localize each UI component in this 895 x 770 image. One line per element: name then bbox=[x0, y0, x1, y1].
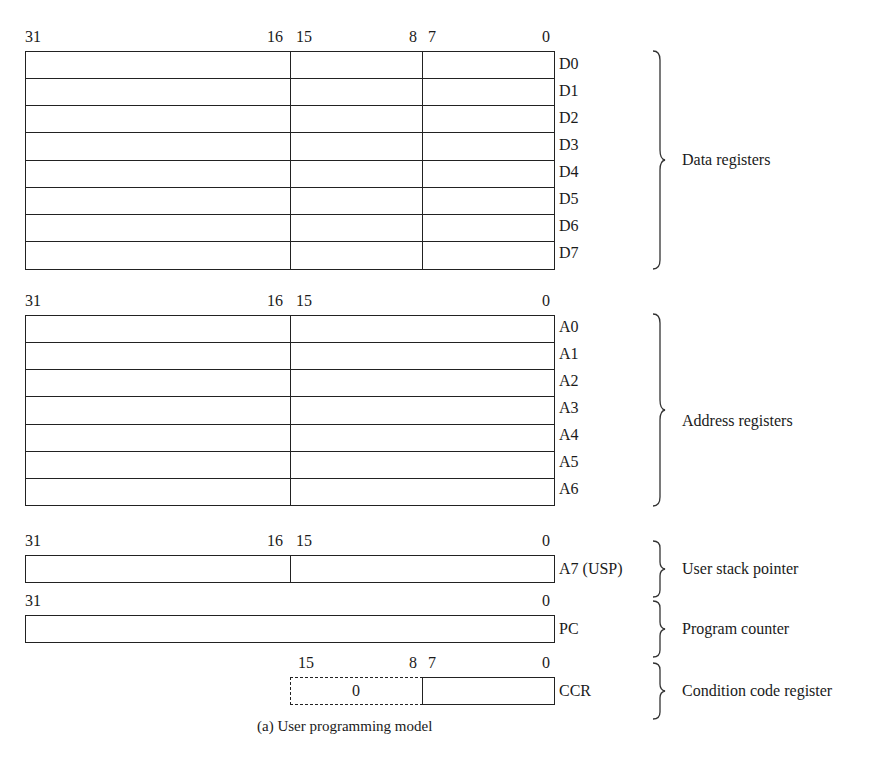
address-register-block bbox=[25, 315, 555, 506]
byte-divider bbox=[422, 52, 423, 269]
register-label-a4: A4 bbox=[559, 427, 579, 443]
register-label-ccr: CCR bbox=[559, 683, 591, 699]
brace-icon bbox=[650, 313, 670, 507]
register-label-d6: D6 bbox=[559, 218, 579, 234]
a7-register-box bbox=[25, 555, 555, 583]
bit-label-16: 16 bbox=[267, 29, 283, 45]
word-divider bbox=[290, 316, 291, 505]
ccr-register-box bbox=[422, 677, 555, 705]
register-label-a0: A0 bbox=[559, 319, 579, 335]
bit-label-31: 31 bbox=[25, 533, 41, 549]
bit-label-8: 8 bbox=[409, 655, 417, 671]
group-label-program-counter: Program counter bbox=[682, 621, 789, 637]
bit-label-15: 15 bbox=[296, 293, 312, 309]
word-divider bbox=[290, 52, 291, 269]
ccr-upper-value: 0 bbox=[352, 683, 360, 699]
bit-label-0: 0 bbox=[542, 29, 550, 45]
brace-icon bbox=[650, 662, 670, 720]
register-label-d2: D2 bbox=[559, 110, 579, 126]
register-label-d7: D7 bbox=[559, 245, 579, 261]
brace-icon bbox=[650, 540, 670, 598]
bit-label-16: 16 bbox=[267, 293, 283, 309]
register-label-d5: D5 bbox=[559, 191, 579, 207]
group-label-data-registers: Data registers bbox=[682, 152, 770, 168]
register-label-pc: PC bbox=[559, 621, 579, 637]
register-label-d0: D0 bbox=[559, 56, 579, 72]
register-label-a7: A7 (USP) bbox=[559, 561, 623, 577]
register-label-a3: A3 bbox=[559, 400, 579, 416]
bit-label-31: 31 bbox=[25, 293, 41, 309]
register-label-a5: A5 bbox=[559, 454, 579, 470]
bit-label-0: 0 bbox=[542, 533, 550, 549]
register-label-a1: A1 bbox=[559, 346, 579, 362]
pc-register-box bbox=[25, 615, 555, 643]
register-label-d1: D1 bbox=[559, 83, 579, 99]
bit-label-8: 8 bbox=[409, 29, 417, 45]
bit-label-7: 7 bbox=[428, 655, 436, 671]
group-label-condition-code-register: Condition code register bbox=[682, 683, 832, 699]
word-divider bbox=[290, 556, 291, 582]
bit-label-0: 0 bbox=[542, 593, 550, 609]
brace-icon bbox=[650, 50, 670, 270]
bit-label-0: 0 bbox=[542, 655, 550, 671]
bit-label-31: 31 bbox=[25, 593, 41, 609]
bit-label-31: 31 bbox=[25, 29, 41, 45]
register-label-a6: A6 bbox=[559, 481, 579, 497]
bit-label-15: 15 bbox=[298, 655, 314, 671]
data-register-block bbox=[25, 51, 555, 270]
brace-icon bbox=[650, 600, 670, 658]
register-label-d3: D3 bbox=[559, 137, 579, 153]
bit-label-16: 16 bbox=[267, 533, 283, 549]
group-label-address-registers: Address registers bbox=[682, 413, 793, 429]
bit-label-15: 15 bbox=[296, 29, 312, 45]
register-label-d4: D4 bbox=[559, 164, 579, 180]
bit-label-7: 7 bbox=[428, 29, 436, 45]
group-label-user-stack-pointer: User stack pointer bbox=[682, 561, 798, 577]
register-label-a2: A2 bbox=[559, 373, 579, 389]
bit-label-0: 0 bbox=[542, 293, 550, 309]
figure-caption: (a) User programming model bbox=[257, 718, 432, 735]
bit-label-15: 15 bbox=[296, 533, 312, 549]
